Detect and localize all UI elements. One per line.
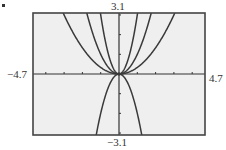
graph-screen	[0, 0, 226, 150]
origin-point	[117, 72, 121, 76]
